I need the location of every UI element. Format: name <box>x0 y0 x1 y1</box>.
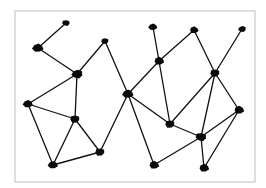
network-diagram <box>0 0 266 188</box>
